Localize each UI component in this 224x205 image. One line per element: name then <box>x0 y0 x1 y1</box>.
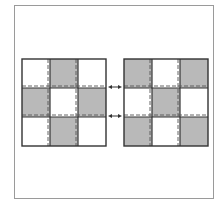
left-grid-cell <box>22 59 50 88</box>
left-grid-cell <box>22 88 50 117</box>
right-grid-cell <box>152 117 180 146</box>
arrow-lower-head-left <box>108 114 112 118</box>
left-grid-cell <box>50 88 78 117</box>
right-grid-cell <box>124 59 152 88</box>
left-grid-cell <box>50 59 78 88</box>
left-grid-cell <box>50 117 78 146</box>
right-grid-cell <box>152 59 180 88</box>
right-grid-cell <box>152 88 180 117</box>
arrow-upper-head-right <box>118 85 122 89</box>
right-grid-cell <box>124 117 152 146</box>
left-grid-cell <box>22 117 50 146</box>
right-grid-cell <box>124 88 152 117</box>
left-grid-cell <box>78 59 106 88</box>
right-grid-cell <box>180 117 208 146</box>
arrow-lower-head-right <box>118 114 122 118</box>
right-grid-cell <box>180 59 208 88</box>
right-grid-cell <box>180 88 208 117</box>
diagram-canvas <box>0 0 224 205</box>
left-grid-cell <box>78 117 106 146</box>
left-grid-cell <box>78 88 106 117</box>
arrow-upper-head-left <box>108 85 112 89</box>
